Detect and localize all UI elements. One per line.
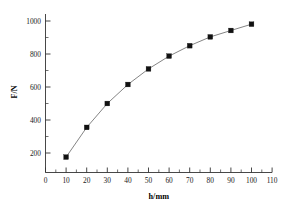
y-axis-major-ticks	[46, 21, 51, 153]
y-tick-label: 400	[30, 116, 41, 125]
x-tick-label: 50	[145, 176, 153, 185]
x-tick-label: 30	[104, 176, 112, 185]
y-tick-label: 600	[30, 83, 41, 92]
x-tick-label: 80	[207, 176, 215, 185]
x-tick-label: 70	[186, 176, 194, 185]
x-tick-labels: 0 10 20 30 40 50 60 70 80 90 100 110	[44, 176, 278, 185]
data-point	[167, 54, 172, 59]
data-point	[126, 82, 131, 87]
x-tick-label: 100	[246, 176, 257, 185]
x-tick-label: 40	[124, 176, 132, 185]
data-markers	[64, 22, 254, 160]
data-point	[229, 28, 234, 33]
data-point	[64, 155, 69, 160]
y-axis-title: F/N	[10, 85, 19, 98]
line-chart: 0 10 20 30 40 50 60 70 80 90 100 110 200…	[0, 0, 291, 212]
x-tick-label: 60	[165, 176, 173, 185]
data-point	[84, 125, 89, 130]
data-series-line	[66, 24, 251, 157]
data-point	[249, 22, 254, 27]
chart-figure: 0 10 20 30 40 50 60 70 80 90 100 110 200…	[0, 0, 291, 212]
x-tick-label: 110	[267, 176, 278, 185]
x-tick-label: 20	[83, 176, 91, 185]
x-tick-label: 10	[62, 176, 70, 185]
x-tick-label: 90	[227, 176, 235, 185]
data-point	[208, 35, 213, 40]
y-tick-label: 1000	[26, 17, 41, 26]
y-tick-label: 800	[30, 50, 41, 59]
data-point	[187, 43, 192, 48]
data-point	[105, 101, 110, 106]
x-axis-title: h/mm	[149, 192, 170, 201]
y-tick-label: 200	[30, 149, 41, 158]
y-tick-labels: 200 400 600 800 1000	[26, 17, 41, 158]
data-point	[146, 67, 151, 72]
x-tick-label: 0	[44, 176, 48, 185]
